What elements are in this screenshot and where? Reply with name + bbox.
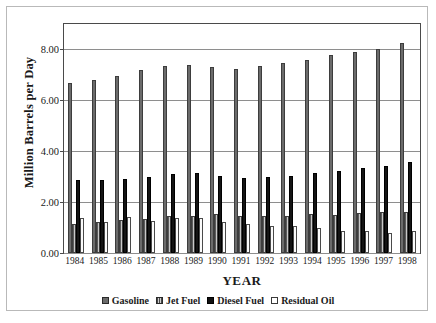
x-tick-label: 1984 bbox=[65, 256, 84, 266]
bar-group-bars bbox=[88, 24, 112, 253]
bar-group-bars bbox=[396, 24, 420, 253]
legend-item-gasoline[interactable]: Gasoline bbox=[102, 295, 149, 306]
x-tick-label: 1998 bbox=[398, 256, 417, 266]
bar-group-bars bbox=[373, 24, 397, 253]
bar-residual-oil bbox=[317, 228, 321, 253]
bar-residual-oil bbox=[80, 218, 84, 253]
bar-group bbox=[349, 24, 373, 253]
legend-label: Gasoline bbox=[112, 295, 149, 306]
bar-group bbox=[111, 24, 135, 253]
bar-group-bars bbox=[301, 24, 325, 253]
bar-group-bars bbox=[349, 24, 373, 253]
bar-group bbox=[396, 24, 420, 253]
bar-group bbox=[301, 24, 325, 253]
bar-group bbox=[254, 24, 278, 253]
y-tick-label: 0.00 bbox=[13, 248, 59, 259]
bar-residual-oil bbox=[151, 221, 155, 253]
bar-residual-oil bbox=[222, 222, 226, 253]
x-tick-label: 1996 bbox=[350, 256, 369, 266]
bar-residual-oil bbox=[246, 224, 250, 253]
bar-group-bars bbox=[64, 24, 88, 253]
bar-residual-oil bbox=[293, 226, 297, 253]
bar-residual-oil bbox=[175, 218, 179, 253]
x-axis-title: YEAR bbox=[63, 273, 421, 289]
bar-group-bars bbox=[325, 24, 349, 253]
y-axis-title: Million Barrels per Day bbox=[22, 43, 37, 203]
legend-swatch-icon bbox=[271, 297, 278, 304]
bar-residual-oil bbox=[270, 226, 274, 253]
plot-inner: 0.002.004.006.008.00 bbox=[64, 24, 420, 253]
legend-swatch-icon bbox=[102, 297, 109, 304]
y-tick-label: 8.00 bbox=[13, 44, 59, 55]
bar-residual-oil bbox=[341, 231, 345, 253]
bar-group bbox=[64, 24, 88, 253]
x-tick-label: 1989 bbox=[184, 256, 203, 266]
bar-group bbox=[278, 24, 302, 253]
y-tick-label: 4.00 bbox=[13, 146, 59, 157]
legend-swatch-icon bbox=[156, 297, 163, 304]
y-tick-label: 2.00 bbox=[13, 197, 59, 208]
bar-group-bars bbox=[230, 24, 254, 253]
x-tick-label: 1992 bbox=[255, 256, 274, 266]
legend-label: Diesel Fuel bbox=[217, 295, 264, 306]
x-tick-label: 1991 bbox=[232, 256, 251, 266]
legend-swatch-icon bbox=[207, 297, 214, 304]
x-tick-label: 1997 bbox=[374, 256, 393, 266]
bar-group-bars bbox=[159, 24, 183, 253]
x-tick-label: 1990 bbox=[208, 256, 227, 266]
chart-legend: GasolineJet FuelDiesel FuelResidual Oil bbox=[7, 295, 429, 306]
bar-group-bars bbox=[206, 24, 230, 253]
bar-group bbox=[206, 24, 230, 253]
chart-figure: Million Barrels per Day 0.002.004.006.00… bbox=[6, 6, 428, 311]
x-tick-label: 1994 bbox=[303, 256, 322, 266]
x-axis-tick-labels: 1984198519861987198819891990199119921993… bbox=[63, 256, 421, 270]
bar-group bbox=[88, 24, 112, 253]
bar-group bbox=[183, 24, 207, 253]
bar-residual-oil bbox=[365, 231, 369, 253]
legend-item-residual-oil[interactable]: Residual Oil bbox=[271, 295, 334, 306]
bar-residual-oil bbox=[104, 222, 108, 253]
bar-group-bars bbox=[278, 24, 302, 253]
legend-item-jet-fuel[interactable]: Jet Fuel bbox=[156, 295, 200, 306]
x-tick-label: 1986 bbox=[113, 256, 132, 266]
x-tick-label: 1988 bbox=[160, 256, 179, 266]
plot-area: 0.002.004.006.008.00 bbox=[63, 23, 421, 254]
bar-group bbox=[159, 24, 183, 253]
bar-group bbox=[325, 24, 349, 253]
bar-group-bars bbox=[135, 24, 159, 253]
y-tick-mark bbox=[60, 253, 64, 254]
bar-group bbox=[373, 24, 397, 253]
bar-residual-oil bbox=[127, 217, 131, 253]
legend-label: Residual Oil bbox=[281, 295, 334, 306]
x-tick-label: 1993 bbox=[279, 256, 298, 266]
bar-residual-oil bbox=[412, 231, 416, 253]
gridline bbox=[64, 253, 420, 254]
x-tick-label: 1985 bbox=[89, 256, 108, 266]
bar-group bbox=[135, 24, 159, 253]
legend-label: Jet Fuel bbox=[166, 295, 200, 306]
bar-residual-oil bbox=[199, 218, 203, 253]
x-tick-label: 1987 bbox=[137, 256, 156, 266]
bar-residual-oil bbox=[388, 233, 392, 253]
x-tick-label: 1995 bbox=[326, 256, 345, 266]
bar-group-bars bbox=[254, 24, 278, 253]
bar-group-bars bbox=[111, 24, 135, 253]
y-tick-label: 6.00 bbox=[13, 95, 59, 106]
bar-group bbox=[230, 24, 254, 253]
bar-group-bars bbox=[183, 24, 207, 253]
legend-item-diesel-fuel[interactable]: Diesel Fuel bbox=[207, 295, 264, 306]
